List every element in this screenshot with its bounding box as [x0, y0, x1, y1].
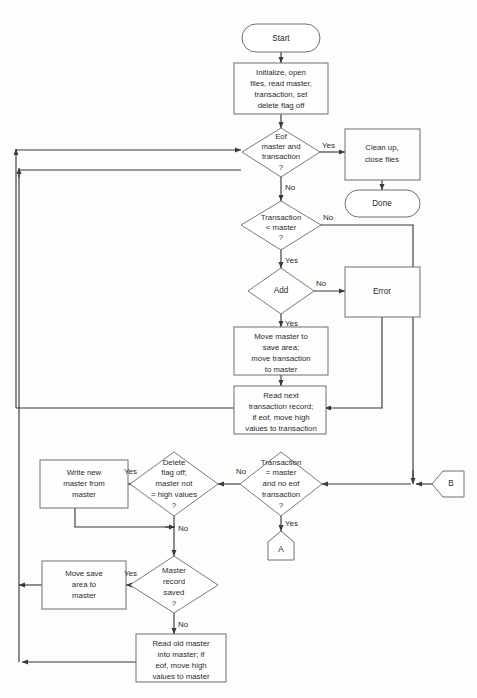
node-readnext-line1: Read next	[263, 391, 299, 400]
node-readnext-line2: transaction record;	[249, 402, 314, 411]
node-transeq-line3: and no eof	[263, 479, 301, 488]
node-mastersaved-line3: saved	[164, 588, 185, 597]
edge-label-deleteflag-no: No	[178, 524, 189, 533]
node-readnext-line3: if eof, move high	[252, 413, 309, 422]
node-movemaster-line3: move transaction	[251, 354, 310, 363]
edge-label-mastersaved-yes: Yes	[124, 569, 137, 578]
node-initialize-line1: Initialize, open	[256, 68, 306, 77]
node-cleanup-line2: close files	[365, 155, 399, 164]
edge-label-mastersaved-no: No	[178, 620, 189, 629]
node-mastersaved-line2: record	[163, 577, 185, 586]
node-translt-line1: Transaction	[261, 213, 301, 222]
node-readold-line3: eof, move high	[155, 661, 206, 670]
edge-label-add-no: No	[316, 279, 327, 288]
node-writenew-line1: Write new	[67, 468, 102, 477]
flowchart-diagram: Start Initialize, open files, read maste…	[0, 0, 477, 698]
node-eof-line1: Eof	[275, 132, 288, 141]
node-movemaster-line2: save area;	[263, 343, 299, 352]
node-initialize-line2: files, read master,	[250, 79, 312, 88]
node-mastersaved-line4: ?	[172, 599, 177, 608]
edge-writenew-junction	[75, 508, 172, 527]
node-deleteflag-line4: = high values	[151, 490, 197, 499]
node-mastersaved-line1: Master	[162, 566, 186, 575]
node-movesave-line1: Move save	[65, 569, 103, 578]
node-add-label: Add	[274, 286, 289, 295]
node-readnext-line4: values to transaction	[245, 424, 317, 433]
node-eof-line4: ?	[279, 163, 284, 172]
node-initialize-line4: delete flag off	[258, 101, 306, 110]
node-connector-a-label: A	[278, 545, 284, 554]
edge-translt-no-rail	[319, 225, 413, 482]
node-start-label: Start	[272, 34, 290, 43]
edge-label-transeq-yes: Yes	[285, 519, 298, 528]
node-cleanup-line1: Clean up,	[365, 143, 398, 152]
node-deleteflag-line2: flag off;	[161, 468, 186, 477]
edge-label-deleteflag-yes: Yes	[124, 467, 137, 476]
node-writenew-line3: master	[72, 490, 96, 499]
node-writenew-line2: master from	[63, 479, 105, 488]
node-transeq-line2: = master	[266, 468, 297, 477]
node-translt-line3: ?	[279, 233, 284, 242]
node-initialize-line3: transaction, set	[255, 90, 309, 99]
node-eof-line3: transaction	[262, 152, 300, 161]
node-transeq-line5: ?	[279, 501, 284, 510]
node-readold-line4: values to master	[152, 672, 210, 681]
node-eof-line2: master and	[261, 142, 300, 151]
node-movemaster-line1: Move master to	[254, 332, 308, 341]
node-transeq-line4: transaction	[262, 490, 300, 499]
node-deleteflag-line3: master not	[156, 479, 194, 488]
flowchart-canvas: Start Initialize, open files, read maste…	[0, 0, 477, 698]
node-translt-line2: < master	[266, 223, 297, 232]
node-done-label: Done	[372, 199, 392, 208]
edge-label-eof-no: No	[285, 183, 296, 192]
node-transeq-line1: Transaction	[261, 458, 301, 467]
node-connector-b-label: B	[448, 479, 454, 488]
node-deleteflag-line5: ?	[172, 501, 177, 510]
edge-label-eof-yes: Yes	[322, 141, 335, 150]
edge-label-translt-no: No	[323, 213, 334, 222]
node-movesave-line3: master	[72, 591, 96, 600]
edge-label-transeq-no: No	[236, 467, 247, 476]
node-readold-line1: Read old master	[152, 639, 210, 648]
node-readold-line2: into master; if	[158, 650, 206, 659]
edge-label-translt-yes: Yes	[285, 256, 298, 265]
node-movemaster-line4: to master	[265, 365, 298, 374]
node-movesave-line2: area to	[72, 580, 97, 589]
edge-error-readnext	[325, 317, 382, 408]
node-deleteflag-line1: Delete	[163, 458, 186, 467]
node-error-label: Error	[373, 287, 391, 296]
